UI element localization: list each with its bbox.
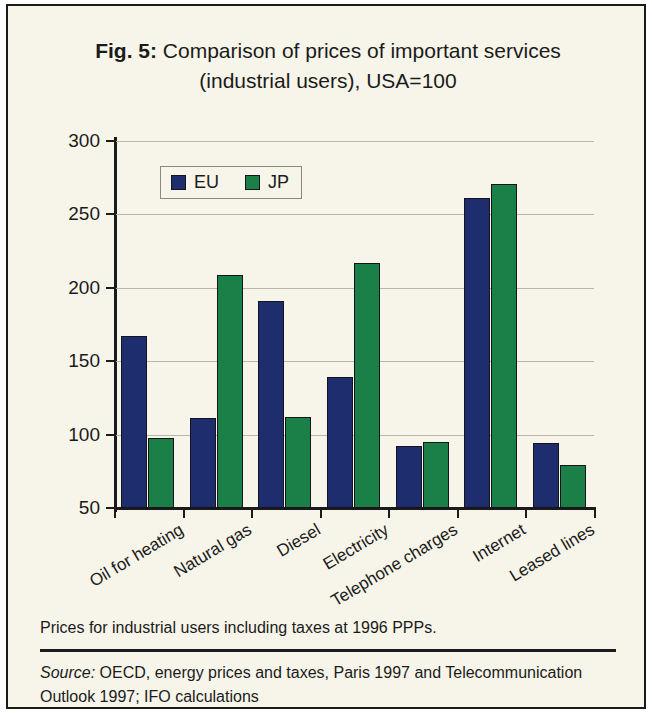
y-tick [106,434,116,436]
bar-eu-natural-gas [190,418,216,508]
legend-item-eu: EU [171,172,219,193]
bar-eu-leased-lines [533,443,559,508]
bar-group [464,141,518,508]
source-text: OECD, energy prices and taxes, Paris 199… [40,664,582,705]
figure-container: Fig. 5: Comparison of prices of importan… [6,4,646,709]
y-tick [106,213,116,215]
x-tick [388,508,390,518]
x-tick [525,508,527,518]
bar-eu-internet [464,198,490,508]
bar-jp-leased-lines [560,465,586,508]
bar-eu-diesel [258,301,284,508]
y-axis-tick-label: 100 [68,424,100,446]
x-tick [183,508,185,518]
y-tick [106,140,116,142]
y-tick [106,360,116,362]
y-tick [106,287,116,289]
legend-label-eu: EU [194,172,219,193]
bar-jp-natural-gas [217,275,243,508]
x-tick [251,508,253,518]
x-tick [114,508,116,518]
y-axis-tick-label: 50 [79,497,100,519]
bar-jp-internet [491,184,517,508]
legend-item-jp: JP [245,172,289,193]
legend-swatch-jp [245,175,260,190]
figure-title-text: Comparison of prices of important servic… [157,39,561,92]
bar-eu-telephone-charges [396,446,422,508]
bar-group [533,141,587,508]
y-axis-tick-label: 250 [68,203,100,225]
y-axis-tick-label: 200 [68,277,100,299]
x-axis-label-diesel: Diesel [273,520,324,561]
figure-source: Source: OECD, energy prices and taxes, P… [40,661,620,709]
y-axis-line [114,137,117,512]
figure-number: Fig. 5: [95,39,157,62]
x-tick [457,508,459,518]
x-axis-label-telephone-charges: Telephone charges [328,520,461,611]
figure-title: Fig. 5: Comparison of prices of importan… [48,36,608,96]
bar-group [327,141,381,508]
divider-rule [40,649,616,652]
bar-group [396,141,450,508]
y-axis-tick-label: 150 [68,350,100,372]
chart-plot-area: 50100150200250300 EU JP [114,141,594,508]
chart-legend: EU JP [160,166,302,199]
legend-swatch-eu [171,175,186,190]
x-axis-label-natural-gas: Natural gas [171,520,256,582]
bar-jp-electricity [354,263,380,508]
y-axis-tick-label: 300 [68,130,100,152]
bar-jp-diesel [285,417,311,508]
bar-eu-electricity [327,377,353,508]
bar-jp-telephone-charges [423,442,449,508]
source-label: Source: [40,664,95,681]
figure-note: Prices for industrial users including ta… [40,619,616,637]
x-tick [594,508,596,518]
x-tick [320,508,322,518]
bar-jp-oil-for-heating [148,438,174,508]
x-axis-label-oil-for-heating: Oil for heating [86,520,187,592]
bar-eu-oil-for-heating [121,336,147,508]
legend-label-jp: JP [268,172,289,193]
